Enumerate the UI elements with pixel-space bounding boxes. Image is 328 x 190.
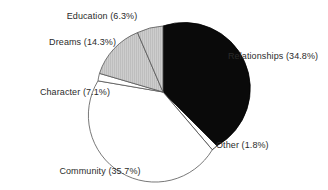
pie-chart: Education (6.3%) Dreams (14.3%) Characte…	[0, 0, 328, 190]
slice-label-community: Community (35.7%)	[42, 166, 158, 177]
slice-label-relationships: Relationships (34.8%)	[228, 51, 328, 62]
slice-label-other: Other (1.8%)	[216, 140, 306, 151]
slice-label-dreams: Dreams (14.3%)	[14, 37, 116, 48]
slice-label-character: Character (7.1%)	[6, 87, 110, 98]
slice-label-education: Education (6.3%)	[52, 11, 152, 22]
